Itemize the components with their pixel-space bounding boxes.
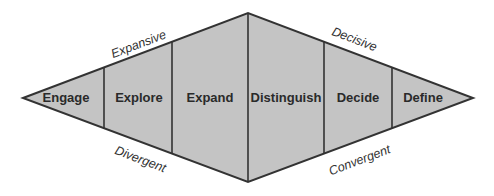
stage-label-define: Define	[403, 90, 443, 105]
stage-label-decide: Decide	[337, 90, 380, 105]
double-diamond-diagram: Engage Explore Expand Distinguish Decide…	[0, 0, 494, 196]
stage-label-explore: Explore	[115, 90, 163, 105]
stage-label-distinguish: Distinguish	[251, 90, 322, 105]
stage-label-engage: Engage	[43, 90, 90, 105]
stage-label-expand: Expand	[187, 90, 234, 105]
